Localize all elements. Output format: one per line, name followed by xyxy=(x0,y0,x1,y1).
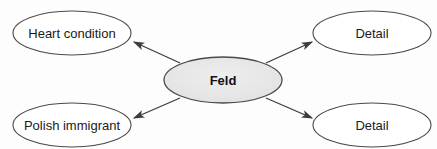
node-feld[interactable]: Feld xyxy=(164,57,282,103)
edge-feld-to-heart-condition xyxy=(134,42,180,63)
node-polish-immigrant-label: Polish immigrant xyxy=(24,118,120,133)
edge-feld-to-detail-bottom-right xyxy=(266,98,312,118)
node-feld-label: Feld xyxy=(210,73,237,88)
edge-feld-to-polish-immigrant xyxy=(134,98,180,118)
node-detail-bottom-right[interactable]: Detail xyxy=(313,103,431,147)
node-detail-top-right-label: Detail xyxy=(355,26,388,41)
edge-feld-to-detail-top-right xyxy=(266,42,312,63)
node-detail-top-right[interactable]: Detail xyxy=(313,11,431,55)
diagram-canvas: Heart condition Detail Polish immigrant … xyxy=(0,0,437,149)
node-polish-immigrant[interactable]: Polish immigrant xyxy=(13,103,131,147)
concept-map-diagram: Heart condition Detail Polish immigrant … xyxy=(0,0,437,149)
node-detail-bottom-right-label: Detail xyxy=(355,118,388,133)
node-heart-condition-label: Heart condition xyxy=(28,26,115,41)
node-heart-condition[interactable]: Heart condition xyxy=(13,11,131,55)
